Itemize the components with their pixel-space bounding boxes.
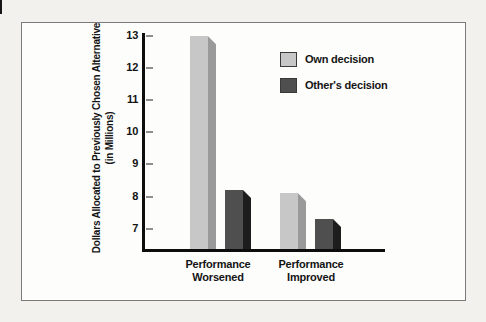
bar-face — [315, 219, 333, 252]
x-label-performance-improved: PerformanceImproved — [261, 258, 361, 284]
x-label-line1: Performance — [168, 258, 268, 271]
x-axis-line — [142, 249, 385, 252]
y-tick-13 — [146, 35, 153, 37]
y-tick-12 — [146, 67, 153, 69]
y-tick-label-12: 12 — [114, 61, 138, 73]
y-axis-line — [142, 33, 145, 252]
y-tick-8 — [146, 196, 153, 198]
y-tick-label-11: 11 — [114, 93, 138, 105]
y-tick-9 — [146, 163, 153, 165]
bar-side-shade — [298, 193, 306, 252]
x-label-line1: Performance — [261, 258, 361, 271]
page-edge-mark — [0, 0, 2, 14]
x-label-line2: Improved — [261, 271, 361, 284]
y-tick-label-7: 7 — [114, 222, 138, 234]
y-tick-label-13: 13 — [114, 29, 138, 41]
bar-side-shade — [208, 36, 216, 252]
legend-label-own-decision: Own decision — [305, 53, 374, 65]
y-tick-label-9: 9 — [114, 157, 138, 169]
bar-own-decision-performance-worsened — [190, 36, 216, 252]
bar-side-shade — [243, 190, 251, 252]
bar-face — [225, 190, 243, 252]
x-label-performance-worsened: PerformanceWorsened — [168, 258, 268, 284]
y-tick-10 — [146, 131, 153, 133]
bar-other-s-decision-performance-worsened — [225, 190, 251, 252]
bar-side-shade — [333, 219, 341, 252]
bar-own-decision-performance-improved — [280, 193, 306, 252]
y-tick-label-8: 8 — [114, 190, 138, 202]
bar-face — [190, 36, 208, 252]
scanned-page: Dollars Allocated to Previously Chosen A… — [0, 0, 486, 322]
legend-swatch-own-decision — [280, 52, 297, 67]
y-tick-7 — [146, 228, 153, 230]
y-tick-label-10: 10 — [114, 125, 138, 137]
x-label-line2: Worsened — [168, 271, 268, 284]
legend-label-other-s-decision: Other's decision — [305, 79, 388, 91]
y-axis-title-line1: Dollars Allocated to Previously Chosen A… — [90, 18, 103, 258]
legend-swatch-other-s-decision — [280, 78, 297, 93]
bar-other-s-decision-performance-improved — [315, 219, 341, 252]
bar-face — [280, 193, 298, 252]
y-tick-11 — [146, 99, 153, 101]
